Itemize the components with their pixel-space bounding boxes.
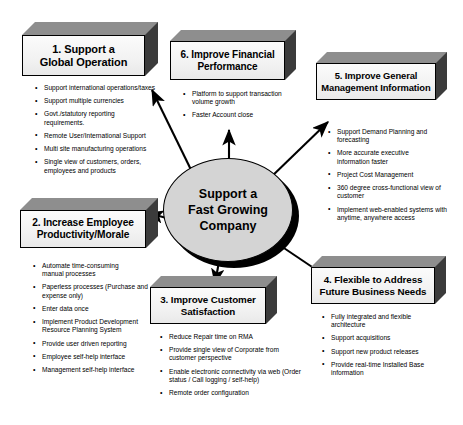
list-item: Govt./statutory reporting requirements. <box>35 110 136 126</box>
list-item: Provide user driven reporting <box>33 340 173 348</box>
list-item: Implement web-enabled systems with anyti… <box>328 206 449 222</box>
node-2-title-line-1: 2. Increase Employee <box>32 217 134 229</box>
node-4-bullets: Fully integrated and flexible architectu… <box>322 313 457 382</box>
node-5-box-top <box>316 52 447 63</box>
list-item: Provide real-time Installed Base informa… <box>322 361 437 377</box>
diagram-canvas: 1. Support a Global Operation Support in… <box>0 0 463 425</box>
node-5-title-line-2: Management Information <box>321 82 430 93</box>
node-5-title-line-1: 5. Improve General <box>335 70 418 81</box>
node-4-title-line-2: Future Business Needs <box>320 286 427 298</box>
node-1-title-line-2: Global Operation <box>40 56 128 69</box>
node-1-box[interactable]: 1. Support a Global Operation <box>22 22 170 76</box>
node-1-box-face: 1. Support a Global Operation <box>22 35 145 76</box>
node-3-title-line-1: 3. Improve Customer <box>160 294 256 306</box>
node-5-box[interactable]: 5. Improve General Management Informatio… <box>316 52 457 100</box>
list-item: More accurate executive information fast… <box>328 149 431 165</box>
list-item: Employee self-help interface <box>33 353 173 361</box>
node-5-box-face: 5. Improve General Management Informatio… <box>316 63 436 100</box>
node-2-title-line-2: Productivity/Morale <box>37 229 130 241</box>
node-3-title-line-2: Satisfaction <box>181 306 235 318</box>
list-item: 360 degree cross-functional view of cust… <box>328 184 441 200</box>
list-item: Project Cost Management <box>328 171 458 179</box>
list-item: Single view of customers, orders, employ… <box>35 158 154 174</box>
list-item: Support new product releases <box>322 348 457 356</box>
node-2-box[interactable]: 2. Increase Employee Productivity/Morale <box>20 198 170 248</box>
list-item: Multi site manufacturing operations <box>35 145 185 153</box>
list-item: Paperless processes (Purchase and expens… <box>33 283 160 299</box>
list-item: Enable electronic connectivity via web (… <box>160 368 301 384</box>
node-4-title-line-1: 4. Flexible to Address <box>324 274 423 286</box>
node-4-box[interactable]: 4. Flexible to Address Future Business N… <box>311 256 457 304</box>
list-item: Platform to support transaction volume g… <box>183 90 296 106</box>
node-2-box-top <box>20 198 158 210</box>
list-item: Automate time-consuming manual processes <box>33 262 130 278</box>
node-3-box[interactable]: 3. Improve Customer Satisfaction <box>150 276 287 324</box>
list-item: Support acquisitions <box>322 334 457 342</box>
node-6-title-line-1: 6. Improve Financial <box>180 49 274 61</box>
list-item: Implement Product Development Resource P… <box>33 318 164 334</box>
list-item: Support Demand Planning and forecasting <box>328 128 443 144</box>
list-item: Management self-help interface <box>33 366 173 374</box>
list-item: Remote order configuration <box>160 389 310 397</box>
list-item: Fully integrated and flexible architectu… <box>322 313 425 329</box>
center-node-line-2: Fast Growing <box>188 202 268 218</box>
list-item: Reduce Repair time on RMA <box>160 333 310 341</box>
list-item: Provide single view of Corporate from cu… <box>160 346 293 362</box>
node-6-box[interactable]: 6. Improve Financial Performance <box>170 30 306 80</box>
node-3-box-top <box>150 276 277 287</box>
center-node-label: Support a Fast Growing Company <box>188 186 268 234</box>
node-3-box-face: 3. Improve Customer Satisfaction <box>150 287 266 324</box>
node-6-title-line-2: Performance <box>197 61 257 73</box>
node-5-bullets: Support Demand Planning and forecasting … <box>328 128 458 227</box>
node-6-box-top <box>170 30 296 41</box>
list-item: Remote User/International Support <box>35 132 185 140</box>
node-6-box-face: 6. Improve Financial Performance <box>170 41 285 80</box>
node-3-bullets: Reduce Repair time on RMA Provide single… <box>160 333 310 402</box>
center-node-line-1: Support a <box>188 186 268 202</box>
center-node[interactable]: Support a Fast Growing Company <box>163 158 293 262</box>
node-4-box-top <box>311 256 446 267</box>
node-6-bullets: Platform to support transaction volume g… <box>183 90 308 125</box>
node-4-box-face: 4. Flexible to Address Future Business N… <box>311 267 435 304</box>
center-node-wrap: Support a Fast Growing Company <box>163 158 301 270</box>
list-item: Support multiple currencies <box>35 97 185 105</box>
node-1-box-top <box>22 22 158 35</box>
list-item: Faster Account close <box>183 111 308 119</box>
node-1-title-line-1: 1. Support a <box>52 43 114 56</box>
node-2-box-face: 2. Increase Employee Productivity/Morale <box>20 210 146 248</box>
list-item: Support international operations/taxes <box>35 84 185 92</box>
center-node-line-3: Company <box>188 218 268 234</box>
